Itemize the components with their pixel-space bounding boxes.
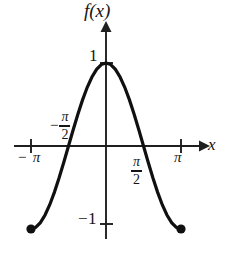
neg-half-pi-minus-sign: − <box>50 117 58 134</box>
endpoint-right-dot <box>176 224 185 233</box>
function-label: f(x) <box>84 1 110 20</box>
endpoint-left-dot <box>26 224 35 233</box>
y-axis-arrowhead <box>101 21 112 32</box>
graph-canvas <box>0 0 229 255</box>
neg-half-pi-numerator: π <box>59 110 70 125</box>
x-tick-label-neg-pi: − π <box>17 150 41 165</box>
half-pi-fraction: π 2 <box>131 155 142 187</box>
half-pi-numerator: π <box>131 155 142 170</box>
y-tick-label-one: 1 <box>89 47 98 64</box>
x-tick-label-half-pi: π 2 <box>131 155 142 187</box>
y-tick-label-negative-one: −1 <box>78 210 97 227</box>
x-tick-label-pi: π <box>174 150 182 165</box>
half-pi-denominator: 2 <box>131 172 142 187</box>
neg-half-pi-denominator: 2 <box>59 127 70 142</box>
neg-half-pi-fraction: π 2 <box>59 110 70 142</box>
x-axis-label: x <box>208 136 216 153</box>
x-tick-label-neg-half-pi: − π 2 <box>50 110 70 142</box>
cosine-graph-figure: f(x) x 1 −1 − π π − π 2 π 2 <box>0 0 229 255</box>
